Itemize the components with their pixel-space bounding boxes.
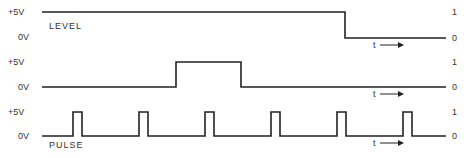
level-time-label: t — [373, 40, 376, 50]
step-high-label: +5V — [8, 57, 24, 67]
step-low-label: 0V — [18, 82, 29, 92]
step-logic-high: 1 — [452, 57, 457, 67]
pulse-signal-line — [42, 112, 446, 136]
level-name-label: LEVEL — [49, 21, 82, 31]
pulse-name-label: PULSE — [49, 140, 84, 150]
step-time-label: t — [373, 89, 376, 99]
pulse-waveform: +5V 0V PULSE 1 0 t — [8, 107, 457, 150]
time-arrowhead-icon — [398, 140, 404, 146]
level-waveform: +5V 0V LEVEL 1 0 t — [8, 7, 457, 50]
waveform-diagram: +5V 0V LEVEL 1 0 t +5V 0V 1 0 t +5V 0V P… — [0, 0, 466, 158]
pulse-high-label: +5V — [8, 107, 24, 117]
time-arrowhead-icon — [398, 42, 404, 48]
time-arrowhead-icon — [398, 91, 404, 97]
step-signal-line — [42, 62, 446, 87]
pulse-logic-high: 1 — [452, 107, 457, 117]
level-logic-high: 1 — [452, 7, 457, 17]
step-logic-low: 0 — [452, 82, 457, 92]
level-high-label: +5V — [8, 7, 24, 17]
pulse-time-label: t — [373, 138, 376, 148]
pulse-low-label: 0V — [18, 131, 29, 141]
level-logic-low: 0 — [452, 33, 457, 43]
level-signal-line — [42, 12, 446, 38]
level-low-label: 0V — [18, 32, 29, 42]
pulse-logic-low: 0 — [452, 131, 457, 141]
step-waveform: +5V 0V 1 0 t — [8, 57, 457, 99]
